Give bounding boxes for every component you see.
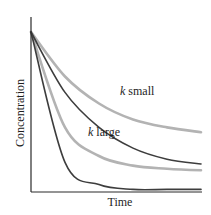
curve-line (31, 32, 201, 170)
chart-plot (0, 0, 211, 215)
small-text: small (125, 84, 154, 98)
curve-line (31, 32, 201, 132)
y-axis-label: Concentration (13, 79, 28, 147)
large-text: large (93, 125, 120, 139)
x-axis-label: Time (108, 195, 133, 210)
annotation-k-large: k large (88, 125, 120, 140)
curves-group (31, 32, 201, 190)
annotation-k-small: k small (120, 84, 154, 99)
curve-line (31, 32, 201, 164)
